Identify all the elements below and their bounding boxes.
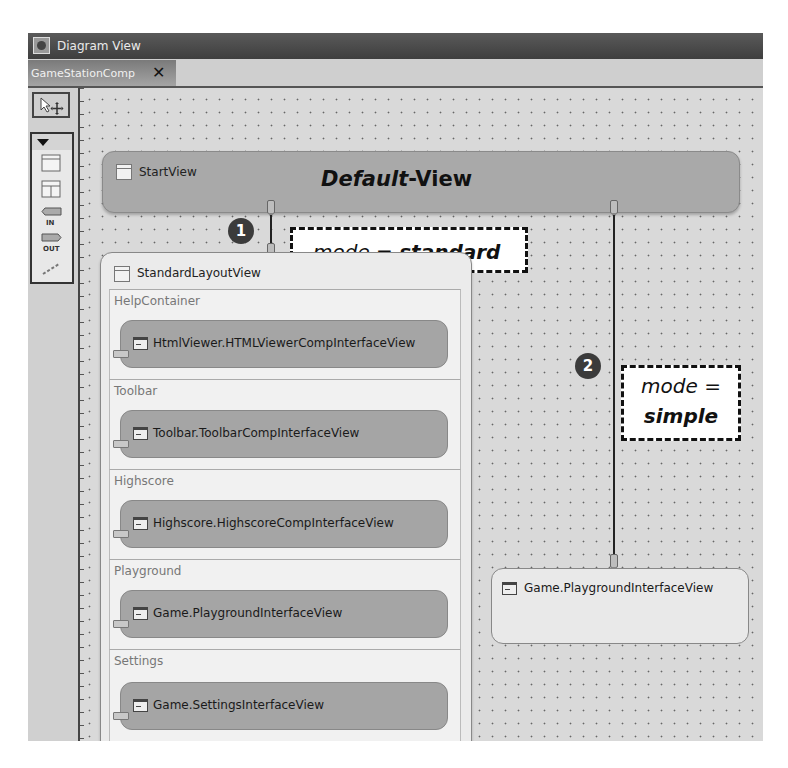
view-icon — [41, 154, 61, 172]
inbound-plug-icon[interactable] — [113, 350, 129, 358]
embedded-view-playground[interactable]: Game.PlaygroundInterfaceView — [120, 590, 448, 638]
embedded-view-label: HtmlViewer.HTMLViewerCompInterfaceView — [153, 336, 415, 350]
outbound-plug-icon: OUT — [41, 232, 63, 254]
inbound-plug-icon[interactable] — [113, 620, 129, 628]
navigation-link-1[interactable] — [270, 215, 272, 243]
triangle-down-icon — [37, 139, 49, 146]
svg-text:OUT: OUT — [43, 245, 60, 253]
container-name: Playground — [114, 564, 181, 578]
standard-layout-view-name: StandardLayoutView — [137, 266, 261, 280]
editor-tab-bar: GameStationComp ✕ — [28, 59, 763, 88]
container-settings[interactable]: Settings Game.SettingsInterfaceView — [109, 649, 461, 741]
close-icon[interactable]: ✕ — [152, 63, 165, 82]
inbound-plug-tool[interactable]: IN — [41, 206, 63, 224]
diagram-canvas[interactable]: StartView Default-View 1 mode = standard… — [80, 88, 763, 741]
palette-drawer: IN OUT — [30, 132, 74, 284]
container-highscore[interactable]: Highscore Highscore.HighscoreCompInterfa… — [109, 469, 461, 559]
navigation-link-icon — [41, 260, 63, 278]
embedded-view-label: Toolbar.ToolbarCompInterfaceView — [153, 426, 359, 440]
container-name: HelpContainer — [114, 294, 200, 308]
embedded-view-label: Highscore.HighscoreCompInterfaceView — [153, 516, 394, 530]
standard-layout-view-node[interactable]: StandardLayoutView HelpContainer HtmlVie… — [100, 252, 472, 741]
link-badge-1: 1 — [228, 218, 254, 244]
inbound-plug-icon[interactable] — [113, 440, 129, 448]
start-view-node[interactable]: StartView Default-View — [102, 151, 740, 213]
interface-view-icon — [133, 337, 148, 350]
container-toolbar[interactable]: Toolbar Toolbar.ToolbarCompInterfaceView — [109, 379, 461, 469]
interface-view-icon — [133, 427, 148, 440]
window-title: Diagram View — [57, 39, 141, 53]
embedded-view-highscore[interactable]: Highscore.HighscoreCompInterfaceView — [120, 500, 448, 548]
svg-text:IN: IN — [46, 219, 55, 227]
select-move-icon — [39, 97, 65, 115]
simple-view-label: Game.PlaygroundInterfaceView — [524, 581, 713, 595]
container-name: Highscore — [114, 474, 174, 488]
navigation-link-tool[interactable] — [41, 260, 63, 278]
container-name: Toolbar — [114, 384, 157, 398]
inbound-plug-icon[interactable] — [113, 712, 129, 720]
container-playground[interactable]: Playground Game.PlaygroundInterfaceView — [109, 559, 461, 649]
canvas-left-ruler — [80, 88, 84, 741]
diagram-view-window: Diagram View GameStationComp ✕ — [28, 33, 763, 741]
embedded-view-htmlviewer[interactable]: HtmlViewer.HTMLViewerCompInterfaceView — [120, 320, 448, 368]
tab-label: GameStationComp — [31, 67, 135, 80]
mode-simple-callout: mode = simple — [621, 365, 741, 441]
simple-playground-view-node[interactable]: Game.PlaygroundInterfaceView — [491, 568, 749, 644]
view-tool[interactable] — [41, 154, 63, 172]
view-container-tool[interactable] — [41, 180, 63, 198]
outbound-plug-simple[interactable] — [610, 200, 618, 214]
tab-gamestationcomp[interactable]: GameStationComp ✕ — [28, 60, 176, 86]
palette-drawer-header[interactable] — [32, 134, 72, 150]
embedded-view-label: Game.SettingsInterfaceView — [153, 698, 324, 712]
inbound-plug-icon: IN — [41, 206, 63, 228]
interface-view-icon — [133, 699, 148, 712]
interface-view-icon — [502, 582, 517, 595]
interface-view-icon — [133, 517, 148, 530]
container-helpcontainer[interactable]: HelpContainer HtmlViewer.HTMLViewerCompI… — [109, 289, 461, 379]
start-view-name: StartView — [139, 165, 197, 179]
inbound-plug-simple[interactable] — [610, 554, 618, 568]
embedded-view-settings[interactable]: Game.SettingsInterfaceView — [120, 682, 448, 730]
embedded-view-label: Game.PlaygroundInterfaceView — [153, 606, 342, 620]
default-view-annotation: Default-View — [321, 167, 472, 191]
view-container-icon — [41, 180, 61, 198]
view-icon — [114, 266, 130, 282]
inbound-plug-icon[interactable] — [113, 530, 129, 538]
title-bar: Diagram View — [28, 33, 763, 59]
outbound-plug-tool[interactable]: OUT — [41, 232, 63, 250]
navigation-link-2[interactable] — [613, 215, 615, 559]
diagram-view-icon — [33, 37, 50, 54]
tool-palette: IN OUT — [28, 88, 80, 741]
container-name: Settings — [114, 654, 163, 668]
view-icon — [116, 164, 132, 180]
outbound-plug-standard[interactable] — [267, 200, 275, 214]
select-tool-button[interactable] — [32, 92, 70, 118]
interface-view-icon — [133, 607, 148, 620]
link-badge-2: 2 — [575, 353, 601, 379]
embedded-view-toolbar[interactable]: Toolbar.ToolbarCompInterfaceView — [120, 410, 448, 458]
